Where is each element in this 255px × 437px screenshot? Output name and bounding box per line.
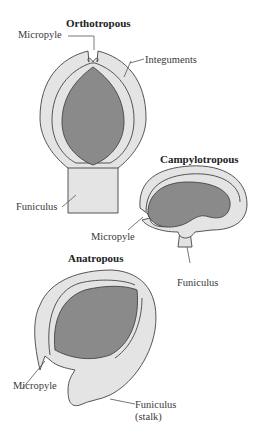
label-funiculus-anatropous: Funiculus bbox=[135, 400, 176, 411]
label-micropyle-orthotropous: Micropyle bbox=[18, 30, 62, 41]
campylotropous-ovule bbox=[140, 166, 247, 247]
title-orthotropous: Orthotropous bbox=[66, 18, 131, 29]
title-anatropous: Anatropous bbox=[68, 253, 123, 264]
label-integuments: Integuments bbox=[145, 55, 197, 66]
label-stalk-anatropous: (stalk) bbox=[135, 412, 162, 423]
ovule-diagram bbox=[0, 0, 255, 437]
orthotropous-ovule bbox=[40, 51, 146, 213]
label-micropyle-campylotropous: Micropyle bbox=[91, 232, 135, 243]
label-funiculus-orthotropous: Funiculus bbox=[16, 202, 57, 213]
label-funiculus-campylotropous: Funiculus bbox=[177, 278, 218, 289]
title-campylotropous: Campylotropous bbox=[160, 154, 239, 165]
label-micropyle-anatropous: Micropyle bbox=[13, 381, 57, 392]
